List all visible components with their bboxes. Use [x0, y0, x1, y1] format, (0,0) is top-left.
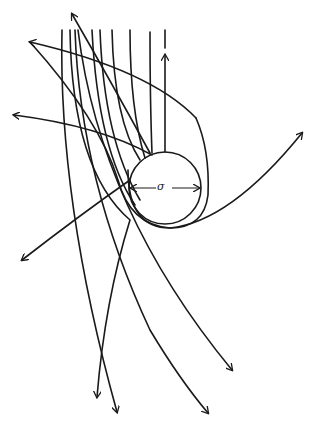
- trajectory-down-1: [62, 30, 117, 412]
- trajectory-down-7: [112, 30, 140, 160]
- sphere-diameter-label: σ: [157, 180, 165, 193]
- trajectory-down-9: [150, 32, 152, 153]
- trajectory-lower-left: [22, 180, 130, 260]
- trajectory-down-3: [75, 30, 208, 413]
- scattering-diagram: σ: [0, 0, 317, 424]
- trajectory-canvas: [0, 0, 317, 424]
